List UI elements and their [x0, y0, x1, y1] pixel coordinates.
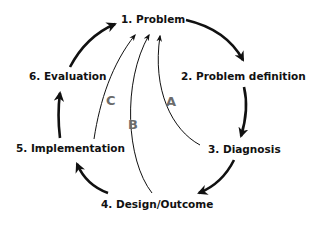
loop-label-c: C [106, 93, 116, 108]
step-2-problem-definition: 2. Problem definition [181, 70, 306, 82]
edge-4-to-5 [77, 164, 108, 193]
edge-2-to-3 [241, 87, 246, 136]
loop-label-a: A [166, 94, 176, 109]
step-5-implementation: 5. Implementation [16, 142, 125, 154]
edge-1-to-2 [186, 20, 243, 60]
edge-3-to-4 [199, 160, 234, 193]
loop-a-curve [158, 36, 200, 145]
loop-label-b: B [128, 117, 138, 132]
step-3-diagnosis: 3. Diagnosis [208, 143, 281, 155]
edge-5-to-6 [59, 93, 61, 138]
step-4-design-outcome: 4. Design/Outcome [101, 198, 213, 210]
loop-b-curve [131, 35, 152, 193]
edge-6-to-1 [70, 24, 115, 67]
step-1-problem: 1. Problem [121, 13, 185, 25]
cycle-diagram: A B C 1. Problem 2. Problem definition 3… [0, 0, 310, 226]
step-6-evaluation: 6. Evaluation [29, 70, 107, 82]
